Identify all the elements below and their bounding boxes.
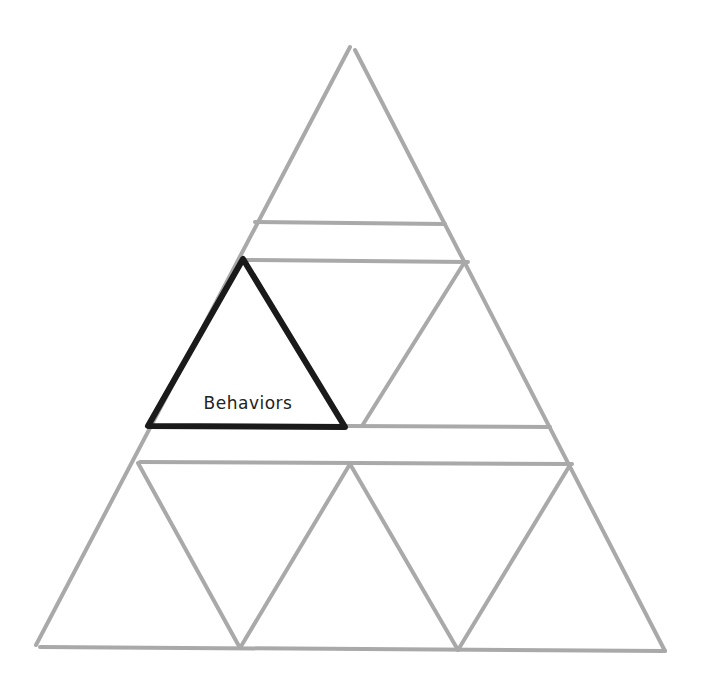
bottom-tri1-right-edge [138,463,240,648]
bottom-tier-top-line [140,462,572,464]
bottom-tier [40,463,665,651]
bottom-tri3-left-edge [350,464,458,650]
behaviors-label: Behaviors [204,393,293,413]
pyramid-canvas [0,0,703,692]
base-line [40,647,665,651]
outer-pyramid [36,47,665,651]
apex-tier [246,222,468,262]
bottom-tri3-right-edge [458,465,570,650]
tier1-bottom-line [246,260,468,262]
middle-tier-bottom-line [346,426,550,427]
middle-right-triangle-left-edge [362,263,464,426]
apex-divider-line [255,222,445,224]
middle-tier [140,263,572,464]
bottom-tri2-right-edge [240,464,350,648]
